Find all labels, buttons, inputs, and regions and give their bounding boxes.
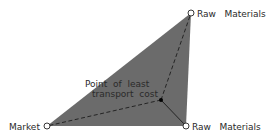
label-raw-materials-top: Raw Materials [197, 9, 266, 19]
node-market [44, 123, 50, 129]
least-cost-point-marker [159, 98, 163, 102]
label-raw-materials-bottom: Raw Materials [192, 122, 261, 132]
node-raw-materials-bottom [183, 123, 189, 129]
label-point-least-cost-2: transport cost [92, 89, 158, 99]
node-raw-materials-top [188, 10, 194, 16]
location-triangle-diagram: Raw Materials Raw Materials Market Point… [0, 0, 278, 138]
label-market: Market [9, 122, 40, 132]
label-point-least-cost-1: Point of least [85, 79, 150, 89]
